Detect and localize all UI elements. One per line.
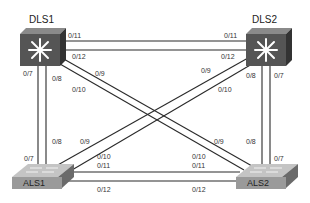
port-label-als1-0-11: 0/11	[97, 162, 110, 169]
port-label-als2-0-7: 0/7	[274, 155, 284, 162]
port-label-dls2-0-8: 0/8	[246, 72, 256, 79]
topology-links	[0, 0, 310, 203]
port-label-dls1-0-12: 0/12	[72, 53, 86, 60]
dls1-label: DLS1	[29, 15, 54, 25]
dls2-label: DLS2	[252, 15, 277, 25]
port-label-als1-0-7: 0/7	[24, 155, 34, 162]
port-label-dls1-0-11: 0/11	[68, 32, 81, 39]
port-label-als1-0-10: 0/10	[97, 153, 111, 160]
port-label-als2-0-11: 0/11	[192, 162, 205, 169]
port-label-als2-0-10: 0/10	[192, 153, 206, 160]
port-label-als1-0-8: 0/8	[52, 138, 62, 145]
port-label-dls2-0-7: 0/7	[274, 72, 284, 79]
port-label-dls2-0-12: 0/12	[221, 53, 235, 60]
port-label-als1-0-12: 0/12	[97, 186, 111, 193]
port-label-dls1-0-10: 0/10	[72, 86, 86, 93]
als1-label: ALS1	[23, 179, 45, 188]
port-label-als1-0-9: 0/9	[80, 138, 90, 145]
port-label-dls1-0-7: 0/7	[23, 70, 33, 77]
link-dls1-als2-9	[62, 58, 252, 166]
als2-label: ALS2	[247, 179, 269, 188]
link-dls2-als1-9	[56, 58, 248, 166]
port-label-dls1-0-9: 0/9	[95, 70, 105, 77]
port-label-dls2-0-11: 0/11	[224, 32, 237, 39]
port-label-als2-0-12: 0/12	[192, 186, 206, 193]
dls1-switch-icon[interactable]	[20, 28, 66, 66]
port-label-dls2-0-10: 0/10	[218, 86, 232, 93]
port-label-als2-0-9: 0/9	[214, 138, 224, 145]
dls2-switch-icon[interactable]	[246, 28, 292, 66]
port-label-dls2-0-9: 0/9	[201, 67, 211, 74]
port-label-als2-0-8: 0/8	[246, 138, 256, 145]
link-dls1-als2-10	[60, 64, 244, 170]
port-label-dls1-0-8: 0/8	[52, 75, 62, 82]
